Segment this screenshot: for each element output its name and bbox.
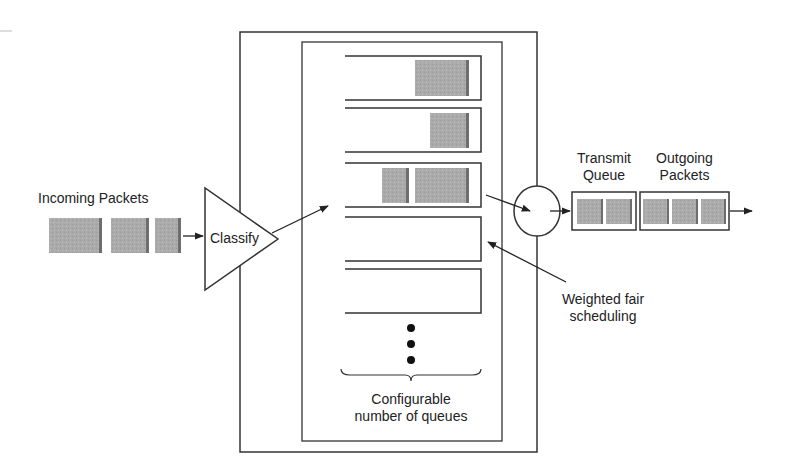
- outgoing-label-1: Outgoing: [640, 150, 729, 167]
- configurable-queues-label: Configurable number of queues: [331, 391, 491, 425]
- wfs-label-1: Weighted fair: [548, 291, 658, 308]
- outgoing-packets-label: Outgoing Packets: [640, 150, 729, 184]
- weighted-fair-scheduling-label: Weighted fair scheduling: [548, 291, 658, 325]
- outer-router-box: [240, 32, 537, 452]
- transmit-queue-label: Transmit Queue: [572, 150, 636, 184]
- config-label-1: Configurable: [331, 391, 491, 408]
- queue-container-box: [302, 42, 502, 441]
- incoming-packets: [49, 218, 181, 253]
- wfs-label-2: scheduling: [548, 308, 658, 325]
- outgoing-label-2: Packets: [640, 167, 729, 184]
- transmit-label-1: Transmit: [572, 150, 636, 167]
- queues-brace: [341, 369, 481, 381]
- config-label-2: number of queues: [331, 408, 491, 425]
- classify-label: Classify: [210, 230, 259, 247]
- transmit-label-2: Queue: [572, 167, 636, 184]
- incoming-packets-label: Incoming Packets: [38, 190, 149, 207]
- queue-packets: [382, 60, 469, 203]
